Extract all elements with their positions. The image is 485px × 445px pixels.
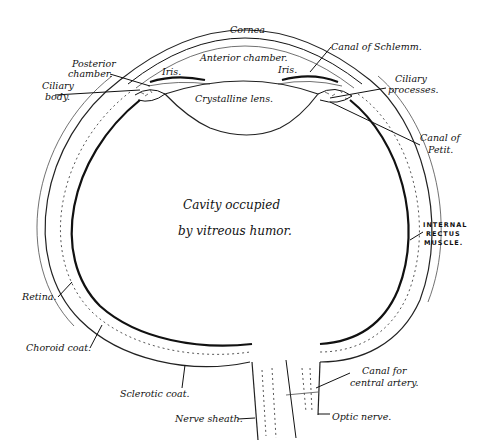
label-retina: Retina. [21, 291, 56, 302]
label-canal-of-petit-2: Petit. [427, 144, 453, 155]
crystalline-lens [165, 81, 318, 135]
center-text-line2: by vitreous humor. [178, 224, 292, 238]
label-sclerotic-coat: Sclerotic coat. [120, 388, 190, 399]
center-text-line1: Cavity occupied [183, 198, 280, 212]
label-ciliary-body-2: body. [45, 91, 70, 102]
label-optic-nerve: Optic nerve. [332, 411, 391, 422]
label-choroid-coat: Choroid coat. [26, 342, 91, 353]
label-internal-rectus-2: RECTUS [426, 230, 461, 238]
label-canal-of-schlemm: Canal of Schlemm. [331, 41, 422, 52]
label-internal-rectus-3: MUSCLE. [424, 239, 463, 247]
label-canal-of-petit-1: Canal of [420, 132, 461, 143]
label-crystalline-lens: Crystalline lens. [195, 93, 273, 104]
label-ciliary-processes-1: Ciliary [395, 73, 428, 84]
eye-anatomy-diagram: Cornea Anterior chamber. Canal of Schlem… [0, 0, 485, 445]
sclerotic-coat [37, 76, 441, 367]
optic-nerve [252, 360, 320, 440]
label-canal-for-central-artery-2: central artery. [350, 377, 418, 388]
label-nerve-sheath: Nerve sheath. [174, 413, 243, 424]
label-canal-for-central-artery-1: Canal for [362, 365, 408, 376]
label-iris-right: Iris. [277, 64, 297, 75]
label-posterior-chamber-2: chamber. [68, 68, 112, 79]
label-ciliary-processes-2: processes. [388, 84, 439, 95]
label-iris-left: Iris. [161, 66, 181, 77]
label-internal-rectus-1: INTERNAL [423, 221, 467, 229]
label-anterior-chamber: Anterior chamber. [199, 52, 288, 63]
retina [72, 100, 409, 346]
label-cornea: Cornea [230, 24, 265, 35]
label-ciliary-body-1: Ciliary [42, 80, 75, 91]
